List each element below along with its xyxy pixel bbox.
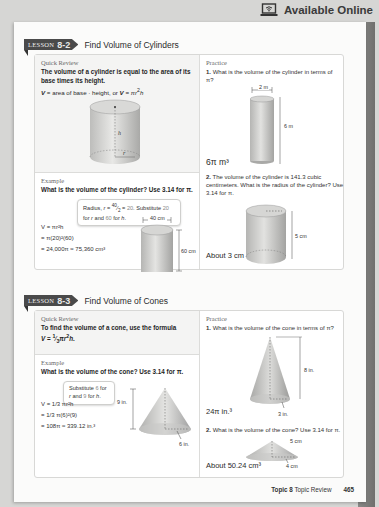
lesson-8-3-header: LESSON 8-3 Find Volume of Cones bbox=[24, 295, 168, 306]
lesson-label: LESSON bbox=[28, 297, 54, 304]
step-1: V = πr²h bbox=[41, 222, 105, 233]
example-steps: V = 1/3 πr²h = 1/3 π(6)²(9) = 108π ≈ 339… bbox=[41, 399, 95, 431]
step-1: V = 1/3 πr²h bbox=[41, 399, 95, 410]
example-heading: Example bbox=[41, 177, 193, 184]
available-online-link[interactable]: Available Online bbox=[260, 3, 373, 17]
quick-review-statement: The volume of a cylinder is equal to the… bbox=[41, 68, 193, 85]
footer-topic: Topic 8 Topic Review bbox=[271, 486, 331, 493]
height-label: 8 in. bbox=[304, 367, 314, 373]
example-question: What is the volume of the cylinder? Use … bbox=[41, 186, 193, 195]
page-number: 465 bbox=[343, 486, 354, 493]
lesson-number: 8-2 bbox=[57, 40, 70, 50]
step-3: = 108π ≈ 339.12 in.³ bbox=[41, 421, 95, 432]
practice-heading: Practice bbox=[206, 59, 337, 66]
cylinder-figure: h r bbox=[85, 97, 145, 169]
quick-review-statement: To find the volume of a cone, use the fo… bbox=[41, 324, 193, 345]
height-label: 9 in. bbox=[117, 399, 127, 405]
slant-label: 5 cm bbox=[290, 438, 302, 444]
lesson-8-2-header: LESSON 8-2 Find Volume of Cylinders bbox=[24, 39, 179, 50]
example-steps: V = πr²h = π(20)²(60) = 24,000π ≈ 75,360… bbox=[41, 222, 105, 254]
practice: Practice 1. What is the volume of the cy… bbox=[200, 55, 343, 269]
height-label: 6 m bbox=[284, 123, 293, 129]
laptop-wifi-icon bbox=[260, 3, 278, 17]
quick-review-heading: Quick Review bbox=[41, 59, 193, 66]
example-cylinder-figure bbox=[135, 217, 197, 273]
lesson-8-3-box: Quick Review To find the volume of a con… bbox=[34, 310, 344, 478]
step-3: = 24,000π ≈ 75,360 cm³ bbox=[41, 244, 105, 255]
quick-review-formula: V = area of base · height, or V = πr2h bbox=[41, 87, 193, 96]
practice-question-2: 2. What is the volume of the cone? Use 3… bbox=[206, 426, 346, 434]
practice-answer-2: About 3 cm bbox=[206, 251, 244, 260]
page-footer: Topic 8 Topic Review 465 bbox=[271, 486, 354, 493]
tab-flag bbox=[24, 50, 28, 56]
example-heading: Example bbox=[41, 359, 193, 366]
available-online-label: Available Online bbox=[284, 4, 373, 16]
practice: Practice 1. What is the volume of the co… bbox=[200, 311, 343, 477]
svg-text:h: h bbox=[118, 130, 121, 136]
lesson-number: 8-3 bbox=[57, 296, 70, 306]
step-2: = 1/3 π(6)²(9) bbox=[41, 410, 95, 421]
practice-question-1: 1. What is the volume of the cone in ter… bbox=[206, 324, 337, 332]
example: Example What is the volume of the cylind… bbox=[35, 173, 199, 269]
radius-label: 3 in. bbox=[278, 411, 288, 417]
practice-answer-2: About 50.24 cm³ bbox=[206, 461, 261, 470]
example: Example What is the volume of the cone? … bbox=[35, 355, 199, 477]
tab-flag bbox=[24, 306, 28, 312]
quick-review-heading: Quick Review bbox=[41, 315, 193, 322]
diameter-label: 40 cm bbox=[148, 215, 167, 221]
quick-review: Quick Review The volume of a cylinder is… bbox=[35, 55, 199, 173]
practice-answer-1: 6π m³ bbox=[206, 157, 229, 167]
practice-cone-1 bbox=[248, 335, 310, 409]
quick-review: Quick Review To find the volume of a con… bbox=[35, 311, 199, 355]
lesson-tab: LESSON 8-3 bbox=[24, 295, 78, 306]
practice-question-1: 1. What is the volume of the cylinder in… bbox=[206, 68, 337, 84]
step-2: = π(20)²(60) bbox=[41, 233, 105, 244]
lesson-label: LESSON bbox=[28, 41, 54, 48]
lesson-title: Find Volume of Cones bbox=[84, 296, 168, 306]
textbook-page: LESSON 8-2 Find Volume of Cylinders Quic… bbox=[14, 22, 366, 502]
radius-label: 6 in. bbox=[179, 441, 189, 447]
practice-question-2: 2. The volume of the cylinder is 141.3 c… bbox=[206, 173, 346, 197]
practice-heading: Practice bbox=[206, 315, 337, 322]
height-label: 5 cm bbox=[295, 233, 307, 239]
example-question: What is the volume of the cone? Use 3.14… bbox=[41, 368, 193, 377]
diameter-label: 2 m bbox=[258, 84, 269, 90]
practice-answer-1: 24π in.³ bbox=[206, 407, 232, 416]
height-label: 60 cm bbox=[181, 248, 196, 254]
lesson-tab: LESSON 8-2 bbox=[24, 39, 78, 50]
lesson-8-2-box: Quick Review The volume of a cylinder is… bbox=[34, 54, 344, 270]
radius-label: 4 cm bbox=[286, 463, 298, 469]
lesson-title: Find Volume of Cylinders bbox=[84, 40, 179, 50]
